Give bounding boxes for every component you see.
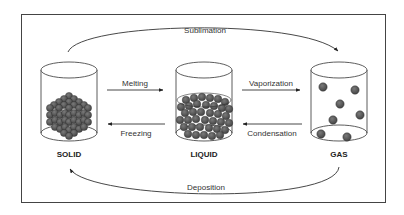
condensation-label: Condensation (247, 129, 296, 138)
gas-container: GAS (311, 62, 367, 159)
deposition-label: Deposition (187, 183, 225, 192)
gas-particles (317, 83, 364, 141)
sublimation-label: Sublimation (184, 26, 226, 35)
vaporization-arrow: Vaporization (242, 79, 300, 90)
liquid-particles (176, 93, 233, 140)
condensation-arrow: Condensation (243, 124, 302, 138)
vaporization-label: Vaporization (249, 79, 293, 88)
freezing-arrow: Freezing (108, 124, 165, 138)
solid-label: SOLID (57, 150, 82, 159)
gas-label: GAS (330, 150, 348, 159)
deposition-arrow: Deposition (70, 167, 339, 194)
liquid-container: LIQUID (176, 62, 233, 159)
freezing-label: Freezing (120, 129, 151, 138)
melting-label: Melting (122, 79, 148, 88)
sublimation-arrow: Sublimation (68, 26, 338, 52)
melting-arrow: Melting (107, 79, 163, 90)
solid-container: SOLID (41, 62, 97, 159)
liquid-label: LIQUID (190, 150, 217, 159)
solid-particles (46, 92, 91, 139)
phase-change-diagram: Sublimation Deposition (0, 0, 404, 215)
